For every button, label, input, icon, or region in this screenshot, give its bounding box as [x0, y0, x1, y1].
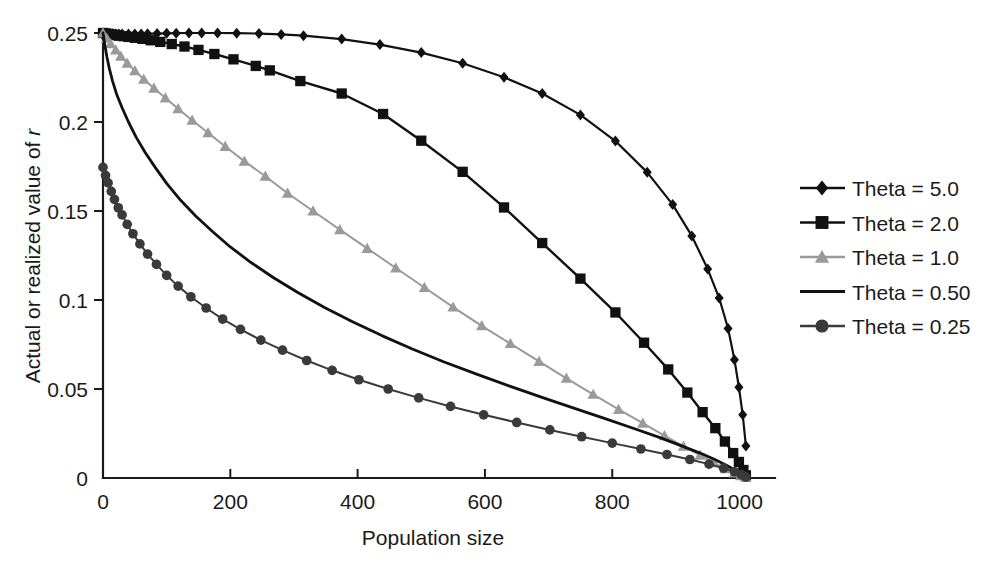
x-tick-label: 1000 — [716, 490, 763, 513]
chart-figure: 00.050.10.150.20.25 02004006008001000 Po… — [0, 0, 984, 572]
series-marker-circle — [446, 402, 456, 412]
y-tick-label: 0.1 — [59, 289, 88, 312]
series-marker-circle — [278, 345, 288, 355]
series-marker-circle — [201, 303, 211, 313]
series-marker-circle — [636, 444, 646, 454]
series-marker-circle — [110, 195, 120, 205]
y-tick-label: 0.05 — [47, 378, 88, 401]
series-marker-square — [457, 167, 467, 177]
series-marker-circle — [256, 335, 266, 345]
series-marker-circle — [173, 281, 183, 291]
legend-item-label: Theta = 0.25 — [852, 315, 971, 338]
series-marker-square — [682, 387, 692, 397]
series-marker-circle — [236, 325, 246, 335]
series-marker-square — [610, 307, 620, 317]
series-marker-circle — [741, 472, 751, 482]
x-tick-label: 0 — [97, 490, 109, 513]
series-marker-square — [378, 109, 388, 119]
series-marker-square — [575, 273, 585, 283]
legend-marker-circle — [815, 319, 828, 332]
series-marker-circle — [186, 292, 196, 302]
series-marker-circle — [117, 210, 127, 220]
series-marker-square — [167, 39, 177, 49]
series-marker-square — [416, 136, 426, 146]
series-marker-circle — [479, 410, 489, 420]
series-marker-square — [295, 76, 305, 86]
x-axis-title: Population size — [362, 526, 504, 549]
legend-item-label: Theta = 0.50 — [852, 281, 971, 304]
figure-background — [0, 0, 984, 572]
series-marker-square — [251, 61, 261, 71]
series-marker-circle — [218, 314, 228, 324]
series-marker-square — [155, 37, 165, 47]
series-marker-square — [710, 423, 720, 433]
series-marker-square — [639, 338, 649, 348]
x-tick-label: 400 — [340, 490, 375, 513]
x-tick-label: 200 — [213, 490, 248, 513]
series-marker-circle — [143, 249, 153, 259]
legend-item-label: Theta = 5.0 — [852, 177, 959, 200]
series-marker-circle — [685, 455, 695, 465]
series-marker-circle — [545, 425, 555, 435]
series-marker-circle — [162, 271, 172, 281]
series-marker-square — [179, 41, 189, 51]
y-tick-label: 0.25 — [47, 22, 88, 45]
series-marker-circle — [719, 463, 729, 473]
y-tick-label: 0.2 — [59, 111, 88, 134]
series-marker-circle — [662, 450, 672, 460]
series-marker-circle — [383, 384, 393, 394]
series-marker-square — [697, 407, 707, 417]
x-tick-label: 600 — [467, 490, 502, 513]
series-marker-circle — [704, 459, 714, 469]
y-tick-label: 0 — [76, 467, 88, 490]
series-marker-square — [209, 49, 219, 59]
y-axis-title: Actual or realized value of r — [21, 128, 44, 383]
series-marker-circle — [607, 438, 617, 448]
legend-marker-square — [816, 216, 829, 229]
series-marker-circle — [302, 356, 312, 366]
series-marker-circle — [122, 220, 132, 230]
series-marker-circle — [152, 260, 162, 270]
legend-item-label: Theta = 2.0 — [852, 212, 959, 235]
series-marker-circle — [577, 432, 587, 442]
series-marker-circle — [354, 375, 364, 385]
series-marker-square — [720, 436, 730, 446]
series-marker-circle — [103, 178, 113, 188]
series-marker-square — [228, 54, 238, 64]
series-marker-square — [337, 88, 347, 98]
series-marker-square — [499, 202, 509, 212]
series-marker-circle — [128, 229, 138, 239]
series-marker-square — [146, 35, 156, 45]
series-marker-circle — [327, 365, 337, 375]
y-tick-label: 0.15 — [47, 200, 88, 223]
series-marker-square — [193, 45, 203, 55]
series-marker-square — [265, 65, 275, 75]
series-marker-square — [728, 448, 738, 458]
series-marker-square — [537, 238, 547, 248]
series-marker-circle — [414, 393, 424, 403]
legend-item-label: Theta = 1.0 — [852, 246, 959, 269]
series-marker-circle — [135, 239, 145, 249]
series-marker-square — [663, 364, 673, 374]
series-marker-circle — [512, 418, 522, 428]
x-tick-label: 800 — [595, 490, 630, 513]
